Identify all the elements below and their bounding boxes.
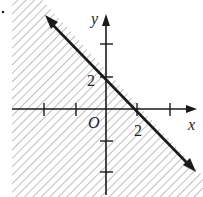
origin-label: O: [88, 114, 100, 131]
x-axis-arrow-icon: [186, 105, 197, 113]
y-axis-arrow-icon: [102, 14, 110, 26]
x-intercept-label: 2: [134, 122, 142, 139]
x-axis-label: x: [187, 116, 195, 133]
y-intercept-label: 2: [87, 72, 95, 89]
shaded-region: [12, 0, 203, 197]
inequality-graph: y x O 2 2: [0, 0, 203, 197]
stray-dot: [2, 11, 5, 14]
y-axis-label: y: [89, 10, 99, 28]
